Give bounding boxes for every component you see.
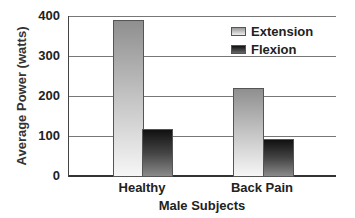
gridline-200 <box>69 96 336 97</box>
category-label-back-pain: Back Pain <box>231 180 293 195</box>
legend-item-flexion: Flexion <box>231 40 313 58</box>
legend-label-flexion: Flexion <box>251 42 297 57</box>
y-tick-200: 200 <box>26 88 60 103</box>
y-tick-400: 400 <box>26 8 60 23</box>
flexion-swatch-icon <box>231 45 246 54</box>
category-label-healthy: Healthy <box>119 180 166 195</box>
legend-label-extension: Extension <box>251 24 313 39</box>
x-axis-label: Male Subjects <box>159 198 246 213</box>
x-axis-line <box>69 175 336 177</box>
y-tick-0: 0 <box>26 168 60 183</box>
y-tick-100: 100 <box>26 128 60 143</box>
legend-item-extension: Extension <box>231 22 313 40</box>
bar-healthy-extension <box>113 20 144 177</box>
extension-swatch-icon <box>231 27 246 36</box>
legend: Extension Flexion <box>231 22 313 58</box>
gridline-400 <box>69 16 336 17</box>
bar-backpain-flexion <box>263 139 294 177</box>
y-tick-300: 300 <box>26 48 60 63</box>
bar-backpain-extension <box>233 88 264 177</box>
gridline-100 <box>69 136 336 137</box>
bar-healthy-flexion <box>142 129 173 177</box>
